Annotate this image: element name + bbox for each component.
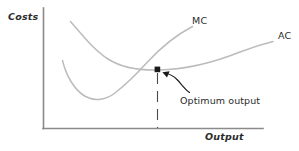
optimum-output-annotation-label: Optimum output [180, 96, 260, 106]
diagram-canvas [0, 0, 299, 151]
ac-curve [71, 22, 274, 71]
cost-curves-diagram: Costs Output MC AC Optimum output [0, 0, 299, 151]
y-axis-label: Costs [8, 12, 38, 22]
optimum-callout-arrow [162, 71, 189, 92]
mc-curve [63, 27, 193, 100]
mc-curve-label: MC [192, 16, 207, 26]
x-axis-label: Output [205, 132, 244, 142]
optimum-point-marker [155, 67, 161, 73]
callout-arrow-shaft [165, 73, 190, 93]
axes-group [43, 8, 263, 129]
ac-curve-label: AC [278, 31, 291, 41]
